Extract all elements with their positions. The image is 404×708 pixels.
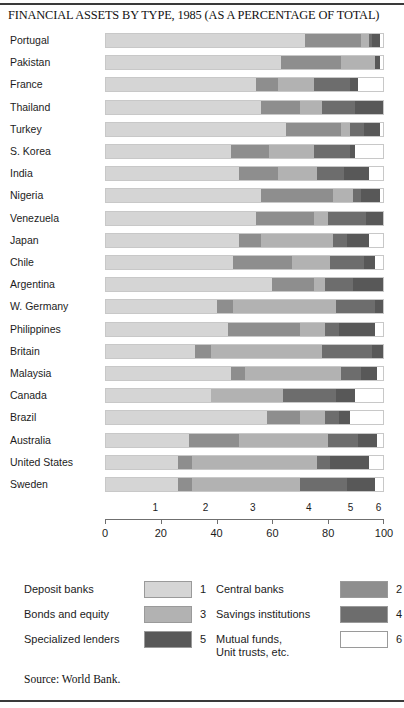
bottom-rule: [0, 700, 404, 702]
country-label: Nigeria: [10, 188, 102, 203]
legend-swatch: [340, 581, 388, 598]
bar-segment: [364, 123, 381, 136]
bar-segment: [325, 411, 339, 424]
country-label: Australia: [10, 433, 102, 448]
axis-tick: [272, 519, 273, 524]
axis-tick: [105, 519, 106, 524]
bar-segment: [106, 434, 189, 447]
bar-segment: [372, 345, 383, 358]
bar-segment: [195, 345, 212, 358]
axis-tick: [383, 519, 384, 524]
bar-segment: [314, 78, 350, 91]
legend-label: Bonds and equity: [24, 608, 109, 621]
bar-segment: [380, 123, 383, 136]
bar-row: [105, 166, 384, 181]
country-label: Thailand: [10, 100, 102, 115]
segment-number-label: 5: [348, 502, 354, 513]
bar-segment: [228, 323, 300, 336]
bar-segment: [369, 456, 383, 469]
bar-row: [105, 277, 384, 292]
bar-segment: [192, 456, 317, 469]
bar-segment: [239, 234, 261, 247]
bar-segment: [106, 345, 195, 358]
bar-segment: [239, 167, 278, 180]
bar-segment: [106, 389, 211, 402]
legend-label: Savings institutions: [216, 608, 310, 621]
bar-segment: [106, 234, 239, 247]
bar-segment: [317, 456, 331, 469]
bar-row: [105, 388, 384, 403]
country-label: Chile: [10, 255, 102, 270]
bar-row: [105, 55, 384, 70]
legend-number: 1: [200, 583, 206, 595]
bar-segment: [305, 34, 360, 47]
bar-segment: [339, 323, 375, 336]
legend: Deposit banks1Central banks2Bonds and eq…: [24, 583, 384, 657]
bar-segment: [106, 367, 231, 380]
bar-row: [105, 366, 384, 381]
legend-number: 4: [396, 608, 402, 620]
bar-segment: [281, 56, 342, 69]
bar-row: [105, 144, 384, 159]
segment-number-label: 4: [306, 502, 312, 513]
bar-segment: [106, 123, 286, 136]
bar-segment: [233, 300, 335, 313]
country-label: Philippines: [10, 322, 102, 337]
bar-segment: [231, 367, 245, 380]
percent-axis: 020406080100: [105, 519, 384, 547]
country-label: United States: [10, 455, 102, 470]
source-note: Source: World Bank.: [24, 673, 120, 685]
axis-tick-label: 80: [322, 527, 334, 539]
axis-tick-label: 100: [375, 527, 393, 539]
country-label: France: [10, 77, 102, 92]
bar-segment: [106, 101, 261, 114]
bar-segment: [333, 189, 352, 202]
bar-segment: [347, 234, 369, 247]
legend-number: 3: [200, 608, 206, 620]
bar-segment: [106, 300, 217, 313]
legend-number: 2: [396, 583, 402, 595]
bar-segment: [106, 256, 233, 269]
bar-segment: [358, 434, 377, 447]
bar-row: [105, 188, 384, 203]
bar-segment: [350, 78, 358, 91]
top-rule: [0, 3, 404, 5]
country-label: India: [10, 166, 102, 181]
country-label: Portugal: [10, 33, 102, 48]
bar-segment: [106, 78, 256, 91]
bar-segment: [314, 145, 350, 158]
bar-segment: [328, 434, 358, 447]
bar-segment: [233, 256, 291, 269]
bar-row: [105, 344, 384, 359]
country-label: Britain: [10, 344, 102, 359]
country-label: Argentina: [10, 277, 102, 292]
axis-tick-label: 60: [266, 527, 278, 539]
bar-segment: [217, 300, 234, 313]
bar-segment: [283, 389, 336, 402]
bar-segment: [300, 411, 325, 424]
bar-segment: [375, 323, 383, 336]
bar-segment: [245, 367, 342, 380]
bar-segment: [106, 456, 178, 469]
bar-segment: [106, 278, 272, 291]
bar-segment: [106, 145, 231, 158]
bar-segment: [369, 234, 383, 247]
bar-segment: [106, 167, 239, 180]
bar-segment: [272, 278, 314, 291]
bar-segment: [325, 323, 339, 336]
legend-swatch: [340, 606, 388, 623]
bar-segment: [317, 167, 345, 180]
bar-segment: [231, 145, 270, 158]
bar-segment: [380, 34, 383, 47]
legend-swatch: [340, 631, 388, 648]
bar-segment: [189, 434, 239, 447]
bar-segment: [350, 411, 383, 424]
bar-segment: [106, 56, 281, 69]
legend-swatch: [144, 631, 192, 648]
axis-tick: [161, 519, 162, 524]
bar-row: [105, 211, 384, 226]
bar-segment: [256, 212, 314, 225]
bar-segment: [341, 123, 349, 136]
country-label: W. Germany: [10, 299, 102, 314]
bar-segment: [355, 145, 383, 158]
